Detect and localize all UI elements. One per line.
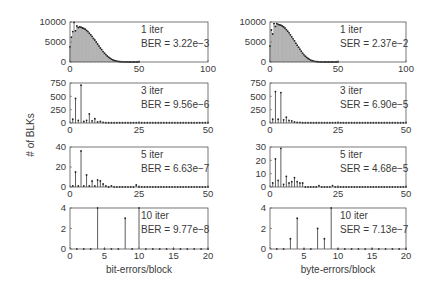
stem-marker [285, 116, 287, 118]
error-rate-label: SER = 4.68e−5 [340, 163, 409, 174]
data-marker [294, 40, 296, 42]
data-marker [95, 41, 97, 43]
x-tick-label: 5 [301, 250, 306, 261]
histogram-bar [94, 40, 95, 62]
data-marker [290, 34, 292, 36]
stem-marker [83, 121, 85, 123]
histogram-bar [282, 26, 283, 62]
data-marker [272, 33, 274, 35]
y-tick-label: 0 [61, 243, 66, 254]
data-marker [106, 55, 108, 57]
data-marker [104, 52, 106, 54]
x-tick-label: 25 [134, 124, 145, 135]
histogram-bar [80, 27, 81, 62]
data-marker [292, 38, 294, 40]
stem-marker [86, 119, 88, 121]
y-tick-label: 0 [61, 117, 66, 128]
stem-marker [291, 181, 293, 183]
y-tick-label: 750 [250, 77, 266, 88]
y-tick-label: 0 [61, 181, 66, 192]
data-marker [72, 31, 74, 33]
stem-marker [97, 179, 99, 181]
data-marker [87, 31, 89, 33]
data-marker [75, 30, 77, 32]
stem-marker [291, 120, 293, 122]
y-tick-label: 0 [261, 56, 266, 67]
stem-marker [272, 182, 274, 184]
data-marker [300, 50, 302, 52]
stem-marker [294, 121, 296, 123]
x-tick-label: 0 [67, 124, 72, 135]
x-tick-label: 50 [203, 124, 214, 135]
stem-marker [283, 183, 285, 185]
histogram-bar [291, 37, 292, 62]
error-rate-label: SER = 7.13e−7 [340, 224, 409, 235]
iteration-label: 1 iter [141, 24, 164, 35]
x-tick-label: 50 [333, 63, 344, 74]
stem-marker [275, 158, 277, 160]
y-tick-label: 5000 [45, 36, 66, 47]
x-tick-label: 25 [333, 188, 344, 199]
histogram-bar [284, 28, 285, 62]
panel-right-1iter: 05010005000100001 iterSER = 2.37e−2 [240, 16, 414, 74]
data-marker [86, 30, 88, 32]
x-tick-label: 20 [203, 250, 214, 261]
y-tick-label: 5000 [245, 36, 266, 47]
histogram-bar [272, 34, 273, 62]
x-tick-label: 50 [203, 188, 214, 199]
figure: 05010005000100001 iterBER = 3.22e−302550… [0, 0, 433, 292]
y-tick-label: 500 [250, 91, 266, 102]
histogram-bar [97, 44, 98, 62]
iteration-label: 10 iter [141, 210, 169, 221]
data-marker [299, 48, 301, 50]
iteration-label: 3 iter [340, 85, 363, 96]
stem-marker [283, 119, 285, 121]
histogram-bar [297, 45, 298, 62]
stem-marker [285, 175, 287, 177]
histogram-bar [280, 25, 281, 62]
data-marker [273, 23, 275, 25]
histogram-bar [107, 56, 108, 62]
histogram-bar [104, 53, 105, 62]
stem-marker [317, 228, 319, 230]
stem-marker [280, 147, 282, 149]
y-tick-label: 2 [261, 223, 266, 234]
data-marker [302, 52, 304, 54]
histogram-bar [87, 32, 88, 62]
stem-marker [277, 118, 279, 120]
stem-marker [77, 119, 79, 121]
y-tick-label: 40 [55, 141, 66, 152]
stem-marker [91, 180, 93, 182]
x-tick-label: 50 [134, 63, 145, 74]
error-rate-label: BER = 3.22e−3 [141, 38, 210, 49]
stem-marker [302, 182, 304, 184]
stem-marker [288, 119, 290, 121]
y-tick-label: 500 [50, 91, 66, 102]
histogram-bar [102, 52, 103, 62]
y-tick-label: 20 [255, 155, 266, 166]
y-tick-label: 0 [261, 117, 266, 128]
stem-marker [102, 183, 104, 185]
histogram-bar [100, 48, 101, 62]
data-marker [70, 36, 72, 38]
stem-marker [280, 92, 282, 94]
y-tick-label: 0 [261, 243, 266, 254]
histogram-bar [275, 26, 276, 62]
panel-left-5iter: 02550020405 iterBER = 6.63e−7 [55, 141, 213, 199]
histogram-bar [299, 49, 300, 62]
panel-left-1iter: 05010005000100001 iterBER = 3.22e−3 [40, 16, 216, 74]
histogram-bar [98, 46, 99, 62]
error-rate-label: BER = 9.56e−6 [141, 99, 210, 110]
histogram-bar [76, 26, 77, 62]
histogram-bar [101, 50, 102, 62]
y-tick-label: 10 [255, 168, 266, 179]
x-axis-label: bit-errors/block [106, 264, 173, 275]
data-marker [94, 39, 96, 41]
stem-marker [290, 238, 292, 240]
x-tick-label: 0 [267, 63, 272, 74]
histogram-bar [74, 22, 75, 62]
histogram-bar [82, 28, 83, 62]
x-tick-label: 0 [67, 250, 72, 261]
data-marker [270, 29, 272, 31]
stem-marker [332, 185, 334, 187]
